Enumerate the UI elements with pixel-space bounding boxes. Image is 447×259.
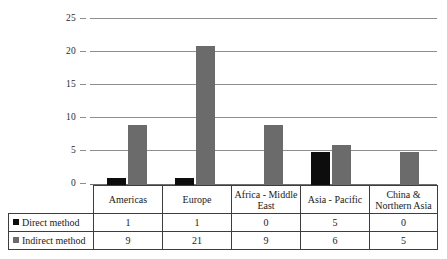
legend-item-indirect-method: Indirect method <box>9 232 94 250</box>
bar-indirect-africa-middle-east <box>264 125 283 185</box>
bar-chart-figure: 25 20 15 10 5 0 <box>0 0 447 259</box>
cell-indirect-europe: 21 <box>163 232 232 250</box>
bar-direct-americas <box>107 178 126 185</box>
bar-indirect-china-northern-asia <box>400 152 419 185</box>
column-header-africa-middle-east: Africa - Middle East <box>232 186 301 214</box>
bar-direct-europe <box>175 178 194 185</box>
bar-indirect-europe <box>196 46 215 185</box>
column-header-china-northern-asia: China & Northern Asia <box>370 186 438 214</box>
legend-item-direct-method: Direct method <box>9 214 94 232</box>
cell-indirect-asia-pacific: 6 <box>301 232 370 250</box>
cell-direct-europe: 1 <box>163 214 232 232</box>
bar-direct-asia-pacific <box>311 152 330 185</box>
cell-indirect-africa-middle-east: 9 <box>232 232 301 250</box>
column-header-americas: Americas <box>94 186 163 214</box>
black-square-icon <box>13 219 19 225</box>
bars-layer <box>0 0 447 190</box>
bar-indirect-asia-pacific <box>332 145 351 185</box>
table-corner-cell <box>9 186 94 214</box>
cell-indirect-americas: 9 <box>94 232 163 250</box>
bar-indirect-americas <box>128 125 147 185</box>
table-row-direct-method: Direct method 1 1 0 5 0 <box>9 214 438 232</box>
chart-data-table: Americas Europe Africa - Middle East Asi… <box>8 185 438 250</box>
cell-indirect-china-northern-asia: 5 <box>370 232 438 250</box>
gray-square-icon <box>13 237 19 243</box>
legend-label-direct-method: Direct method <box>22 218 79 229</box>
plot-area: 25 20 15 10 5 0 <box>0 0 447 190</box>
column-header-europe: Europe <box>163 186 232 214</box>
legend-label-indirect-method: Indirect method <box>22 236 86 247</box>
cell-direct-china-northern-asia: 0 <box>370 214 438 232</box>
column-header-asia-pacific: Asia - Pacific <box>301 186 370 214</box>
cell-direct-americas: 1 <box>94 214 163 232</box>
table-header-row: Americas Europe Africa - Middle East Asi… <box>9 186 438 214</box>
cell-direct-asia-pacific: 5 <box>301 214 370 232</box>
cell-direct-africa-middle-east: 0 <box>232 214 301 232</box>
table-row-indirect-method: Indirect method 9 21 9 6 5 <box>9 232 438 250</box>
